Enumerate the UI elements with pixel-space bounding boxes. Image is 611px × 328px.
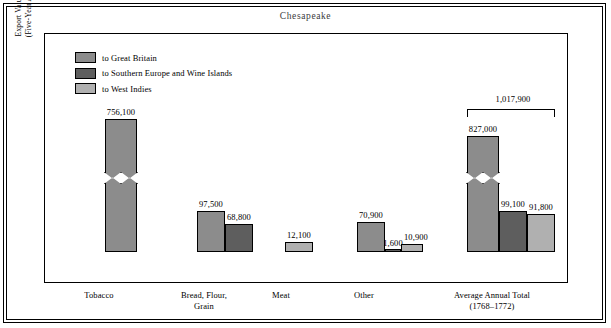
group-label-total: Average Annual Total (1768–1772)	[412, 290, 572, 312]
bar-meat-great-britain[interactable]	[285, 242, 313, 252]
value-grand-total: 1,017,900	[473, 94, 553, 104]
bars-layer: 756,100 97,500 68,800 12,100 70,900 1,60…	[45, 34, 567, 282]
bar-tobacco-great-britain[interactable]	[105, 119, 137, 252]
group-label-bread-line2: Grain	[194, 301, 214, 311]
total-bracket	[467, 109, 555, 117]
group-label-tobacco: Tobacco	[46, 290, 152, 301]
value-bread-great-britain: 97,500	[181, 199, 241, 209]
bar-bread-southern-europe[interactable]	[225, 224, 253, 252]
bar-total-west-indies[interactable]	[527, 214, 555, 252]
bar-other-southern-europe[interactable]	[385, 249, 401, 252]
plot-area: to Great Britain to Southern Europe and …	[44, 33, 568, 283]
value-other-west-indies: 10,900	[391, 232, 441, 242]
chart-title: Chesapeake	[0, 11, 611, 21]
bar-other-west-indies[interactable]	[401, 244, 423, 252]
bar-total-great-britain[interactable]	[467, 136, 499, 252]
y-axis-label-line1: Export Value in Pounds Sterling	[14, 0, 24, 90]
group-label-bread-line1: Bread, Flour,	[181, 290, 227, 300]
chart-page: Chesapeake Export Value in Pounds Sterli…	[0, 0, 611, 328]
group-label-total-line1: Average Annual Total	[454, 290, 530, 300]
group-label-total-line2: (1768–1772)	[469, 301, 514, 311]
group-label-meat: Meat	[244, 290, 318, 301]
value-total-west-indies: 91,800	[511, 202, 571, 212]
group-label-meat-line1: Meat	[272, 290, 290, 300]
group-label-other: Other	[318, 290, 410, 301]
y-axis-label: Export Value in Pounds Sterling (Five-Ye…	[16, 30, 42, 280]
value-bread-southern-europe: 68,800	[209, 212, 269, 222]
group-label-other-line1: Other	[354, 290, 374, 300]
bar-total-southern-europe[interactable]	[499, 211, 527, 252]
value-tobacco-great-britain: 756,100	[91, 107, 151, 117]
value-other-great-britain: 70,900	[341, 210, 401, 220]
value-total-great-britain: 827,000	[453, 124, 513, 134]
value-meat-great-britain: 12,100	[269, 230, 329, 240]
group-label-tobacco-line1: Tobacco	[84, 290, 113, 300]
y-axis-label-line2: (Five-Year Average, 1768–1772)	[24, 0, 34, 90]
